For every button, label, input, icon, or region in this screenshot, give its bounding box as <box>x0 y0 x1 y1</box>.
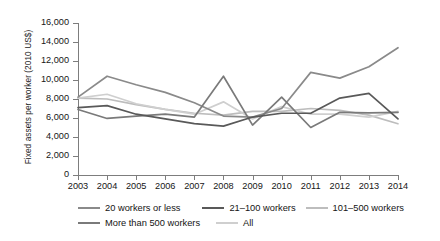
legend-row-1: 20 workers or less21–100 workers101–500 … <box>78 200 426 215</box>
chart-legend: 20 workers or less21–100 workers101–500 … <box>78 200 426 230</box>
legend-row-2: More than 500 workersAll <box>78 215 426 230</box>
legend-item[interactable]: 20 workers or less <box>78 203 180 213</box>
legend-swatch <box>202 207 224 209</box>
legend-swatch <box>78 222 100 224</box>
legend-label: 21–100 workers <box>229 203 295 213</box>
chart-figure: Fixed assets per worker (2010 US$) 02,00… <box>0 0 440 241</box>
legend-label: All <box>243 218 253 228</box>
legend-swatch <box>216 222 238 224</box>
legend-item[interactable]: All <box>216 218 253 228</box>
legend-swatch <box>306 207 328 209</box>
legend-item[interactable]: 101–500 workers <box>306 203 404 213</box>
legend-label: More than 500 workers <box>105 218 200 228</box>
legend-item[interactable]: More than 500 workers <box>78 218 200 228</box>
legend-label: 20 workers or less <box>105 203 180 213</box>
legend-item[interactable]: 21–100 workers <box>202 203 295 213</box>
legend-swatch <box>78 207 100 209</box>
legend-label: 101–500 workers <box>333 203 404 213</box>
series-line <box>78 48 398 117</box>
series-line <box>78 94 398 119</box>
